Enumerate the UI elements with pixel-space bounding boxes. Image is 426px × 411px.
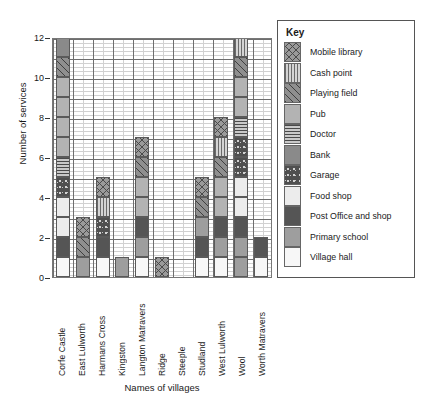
segment-garage [234,157,248,177]
segment-mobile-library [214,117,228,137]
legend-swatch-garage [284,165,301,185]
segment-garage [234,137,248,157]
legend-item-mobile-library[interactable]: Mobile library [284,42,408,63]
x-label-text: West Lulworth [217,280,227,376]
y-tick-mark [45,238,50,239]
x-label-corfe-castle: Corfe Castle [52,280,72,376]
segment-pub [214,177,228,197]
legend-label: Mobile library [310,47,362,57]
legend-label: Bank [310,150,330,160]
segment-post-office [135,217,149,237]
bar-west-lulworth[interactable] [212,39,232,277]
legend-item-cash-point[interactable]: Cash point [284,63,408,84]
segment-primary-school [234,257,248,277]
bar-ridge[interactable] [152,39,172,277]
segment-village-hall [135,257,149,277]
legend-item-food-shop[interactable]: Food shop [284,186,408,207]
legend-swatch-bank [284,145,301,165]
segment-food-shop [56,197,70,217]
segment-pub [234,77,248,97]
bar-harmans-cross[interactable] [93,39,113,277]
segment-food-shop [234,197,248,217]
bar-east-lulworth[interactable] [73,39,93,277]
bar-stack [234,38,248,277]
segment-primary-school [214,237,228,257]
bar-corfe-castle[interactable] [53,39,73,277]
bar-stack [155,257,169,277]
bar-kingston[interactable] [112,39,132,277]
legend-item-village-hall[interactable]: Village hall [284,247,408,268]
bar-studland[interactable] [192,39,212,277]
segment-playing-field [195,197,209,217]
legend-label: Post Office and shop [310,211,392,221]
y-tick-mark [45,278,50,279]
segment-bank [56,38,70,57]
segment-mobile-library [195,177,209,197]
legend-label: Doctor [310,129,336,139]
y-tick-mark [45,158,50,159]
legend: Key Mobile libraryCash pointPlaying fiel… [277,20,415,278]
bars-container [53,39,271,277]
bar-stack [135,137,149,277]
segment-mobile-library [76,217,90,237]
x-label-text: Corfe Castle [57,280,67,376]
segment-playing-field [135,157,149,177]
legend-swatch-playing-field [284,83,301,103]
legend-swatch-mobile-library [284,42,301,62]
legend-item-post-office[interactable]: Post Office and shop [284,206,408,227]
y-tick-0: 0 [39,273,44,283]
segment-doctor [234,117,248,137]
legend-item-doctor[interactable]: Doctor [284,124,408,145]
legend-item-garage[interactable]: Garage [284,165,408,186]
segment-food-shop [56,217,70,237]
y-tick-mark [45,78,50,79]
segment-primary-school [115,257,129,277]
y-tick-4: 4 [39,193,44,203]
x-label-text: Studland [197,280,207,376]
x-label-wool: Wool [232,280,252,376]
segment-pub [214,197,228,217]
segment-playing-field [56,57,70,77]
y-tick-mark [45,118,50,119]
y-tick-2: 2 [39,233,44,243]
segment-primary-school [234,237,248,257]
legend-label: Pub [310,109,326,119]
bar-langton-matravers[interactable] [132,39,152,277]
legend-label: Food shop [310,191,352,201]
segment-mobile-library [96,177,110,197]
x-label-text: Kingston [117,280,127,376]
x-label-text: Wool [237,280,247,376]
legend-label: Village hall [310,252,352,262]
bar-stack [214,117,228,277]
x-axis-labels: Corfe CastleEast LulworthHarmans CrossKi… [52,280,272,376]
segment-mobile-library [155,257,169,277]
x-label-text: Langton Matravers [137,280,147,376]
x-label-studland: Studland [192,280,212,376]
segment-playing-field [214,157,228,177]
x-label-text: Steeple [177,280,187,376]
segment-post-office [96,237,110,257]
segment-primary-school [195,217,209,237]
x-label-worth-matravers: Worth Matravers [252,280,272,376]
legend-swatch-doctor [284,124,301,144]
x-label-text: East Lulworth [77,280,87,376]
bar-stack [76,217,90,277]
segment-cash-point [214,137,228,157]
segment-village-hall [195,257,209,277]
bar-steeple[interactable] [172,39,192,277]
segment-post-office [214,217,228,237]
bar-wool[interactable] [231,39,251,277]
segment-pub [56,77,70,97]
x-label-east-lulworth: East Lulworth [72,280,92,376]
legend-label: Cash point [310,68,352,78]
segment-playing-field [234,57,248,77]
legend-item-pub[interactable]: Pub [284,104,408,125]
segment-village-hall [214,257,228,277]
segment-garage [56,177,70,197]
legend-item-playing-field[interactable]: Playing field [284,83,408,104]
segment-pub [135,177,149,197]
segment-post-office [195,237,209,257]
legend-item-bank[interactable]: Bank [284,145,408,166]
bar-worth-matravers[interactable] [251,39,271,277]
legend-item-primary-school[interactable]: Primary school [284,227,408,248]
